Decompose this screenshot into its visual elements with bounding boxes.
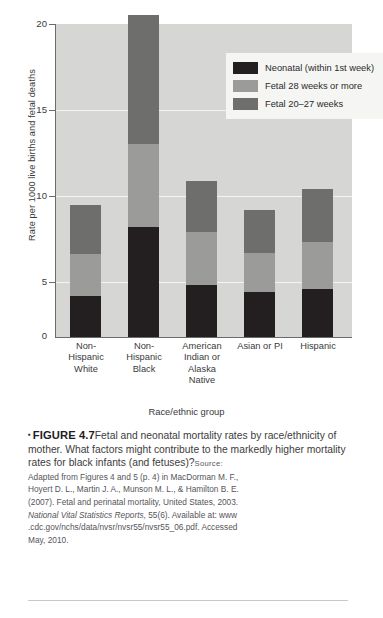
- bar-segment-neonatal: [244, 292, 275, 337]
- caption-source-block: Adapted from Figures 4 and 5 (p. 4) in M…: [28, 471, 348, 547]
- bar-non-hispanic-black: [128, 15, 159, 337]
- x-tick-label-asian-or-pi: Asian or PI: [227, 341, 293, 352]
- x-tick-line: Hispanic: [285, 341, 351, 352]
- figure-chart: Rate per 1000 live births and fetal deat…: [0, 0, 373, 425]
- bar-segment-fetal-28-plus: [128, 144, 159, 227]
- x-tick-line: Asian or PI: [227, 341, 293, 352]
- bar-american-indian-alaska-native: [186, 181, 217, 337]
- x-axis-line: [55, 337, 352, 338]
- bar-segment-fetal-20-27: [128, 15, 159, 144]
- y-tick-label-0: 0: [7, 331, 47, 341]
- bar-segment-neonatal: [128, 227, 159, 337]
- y-axis-line: [55, 24, 56, 338]
- x-tick-line: Alaska: [169, 364, 235, 375]
- x-tick-line: Indian or: [169, 352, 235, 363]
- x-tick-line: Black: [111, 364, 177, 375]
- x-tick-line: American: [169, 341, 235, 352]
- caption-source-line-3: (2007). Fetal and perinatal mortality, U…: [28, 497, 238, 507]
- figure-caption: ▪FIGURE 4.7Fetal and neonatal mortality …: [28, 428, 348, 546]
- y-tick-mark-10: [49, 196, 56, 197]
- bar-segment-fetal-28-plus: [244, 253, 275, 293]
- caption-source-journal: National Vital Statistics Reports: [28, 510, 144, 520]
- bar-segment-fetal-28-plus: [70, 254, 101, 295]
- bar-segment-fetal-20-27: [302, 189, 333, 242]
- y-tick-mark-20: [49, 24, 56, 25]
- y-tick-mark-15: [49, 110, 56, 111]
- x-tick-line: Native: [169, 375, 235, 386]
- bar-hispanic: [302, 189, 333, 337]
- legend-label-fetal-28-plus: Fetal 28 weeks or more: [265, 81, 362, 91]
- legend-label-fetal-20-27: Fetal 20–27 weeks: [265, 99, 343, 109]
- legend-swatch-fetal-20-27: [233, 98, 258, 110]
- bar-segment-fetal-28-plus: [302, 242, 333, 288]
- caption-source-line-1: Adapted from Figures 4 and 5 (p. 4) in M…: [28, 472, 238, 482]
- plot-area: Neonatal (within 1st week) Fetal 28 week…: [56, 24, 352, 337]
- bar-asian-or-pi: [244, 210, 275, 337]
- x-axis-title: Race/ethnic group: [0, 406, 373, 417]
- chart-legend: Neonatal (within 1st week) Fetal 28 week…: [226, 53, 383, 119]
- caption-bullet-marker: ▪: [28, 430, 31, 439]
- y-tick-label-20: 20: [7, 19, 47, 29]
- bar-segment-fetal-20-27: [244, 210, 275, 253]
- x-tick-line: Hispanic: [53, 352, 119, 363]
- legend-swatch-neonatal: [233, 62, 258, 74]
- x-tick-line: Non-: [111, 341, 177, 352]
- y-axis-title: Rate per 1000 live births and fetal deat…: [27, 35, 37, 275]
- bar-segment-neonatal: [302, 289, 333, 337]
- x-tick-label-non-hispanic-black: Non- Hispanic Black: [111, 341, 177, 375]
- bar-segment-fetal-28-plus: [186, 232, 217, 285]
- caption-source-line-2: Hoyert D. L., Martin J. A., Munson M. L.…: [28, 484, 239, 494]
- y-tick-mark-5: [49, 282, 56, 283]
- caption-source-line-4-rest: , 55(6). Available at: www: [144, 510, 237, 520]
- y-tick-label-15: 15: [7, 105, 47, 115]
- bottom-divider: [28, 600, 348, 601]
- bar-non-hispanic-white: [70, 205, 101, 337]
- x-tick-line: White: [53, 364, 119, 375]
- caption-source-line-5: .cdc.gov/nchs/data/nvsr/nvsr55/nvsr55_06…: [28, 522, 237, 532]
- legend-item-neonatal: Neonatal (within 1st week): [233, 59, 374, 77]
- y-tick-label-5: 5: [7, 277, 47, 287]
- legend-item-fetal-20-27: Fetal 20–27 weeks: [233, 95, 374, 113]
- caption-source-line-6: May, 2010.: [28, 535, 68, 545]
- caption-figure-number: FIGURE 4.7: [33, 429, 95, 441]
- legend-item-fetal-28-plus: Fetal 28 weeks or more: [233, 77, 374, 95]
- legend-label-neonatal: Neonatal (within 1st week): [265, 63, 374, 73]
- x-tick-label-american-indian-alaska-native: American Indian or Alaska Native: [169, 341, 235, 387]
- x-tick-line: Hispanic: [111, 352, 177, 363]
- y-tick-label-10: 10: [7, 191, 47, 201]
- bar-segment-fetal-20-27: [186, 181, 217, 233]
- x-tick-label-non-hispanic-white: Non- Hispanic White: [53, 341, 119, 375]
- legend-swatch-fetal-28-plus: [233, 80, 258, 92]
- bar-segment-neonatal: [186, 285, 217, 337]
- caption-source-label: Source:: [195, 459, 223, 468]
- bar-segment-fetal-20-27: [70, 205, 101, 255]
- bar-segment-neonatal: [70, 296, 101, 337]
- x-tick-line: Non-: [53, 341, 119, 352]
- x-tick-label-hispanic: Hispanic: [285, 341, 351, 352]
